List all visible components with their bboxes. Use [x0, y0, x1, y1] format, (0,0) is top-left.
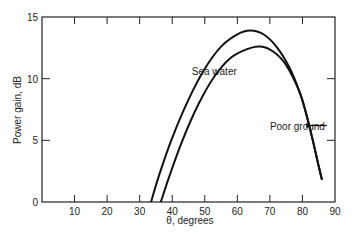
y-axis-label: Power gain, dB: [12, 76, 23, 144]
plot-frame: [42, 17, 335, 202]
power-gain-chart: 102030405060708090 051015 Sea waterPoor …: [0, 0, 355, 237]
x-axis-label: θ, degrees: [166, 215, 213, 226]
y-tick-label: 15: [27, 12, 39, 23]
x-tick-label: 60: [232, 206, 244, 217]
x-tick-label: 10: [69, 206, 81, 217]
x-tick-label: 90: [329, 206, 341, 217]
x-tick-label: 20: [102, 206, 114, 217]
y-tick-label: 0: [32, 197, 38, 208]
curve-sea-water: [151, 31, 322, 202]
x-axis-ticks: 102030405060708090: [69, 17, 341, 217]
x-tick-label: 80: [297, 206, 309, 217]
y-axis-ticks: 051015: [27, 12, 335, 208]
x-tick-label: 70: [264, 206, 276, 217]
annotations: Sea waterPoor ground: [192, 66, 327, 131]
data-curves: [151, 31, 322, 202]
annotation-label: Sea water: [192, 66, 238, 77]
y-tick-label: 5: [32, 135, 38, 146]
x-tick-label: 30: [134, 206, 146, 217]
y-tick-label: 10: [27, 74, 39, 85]
